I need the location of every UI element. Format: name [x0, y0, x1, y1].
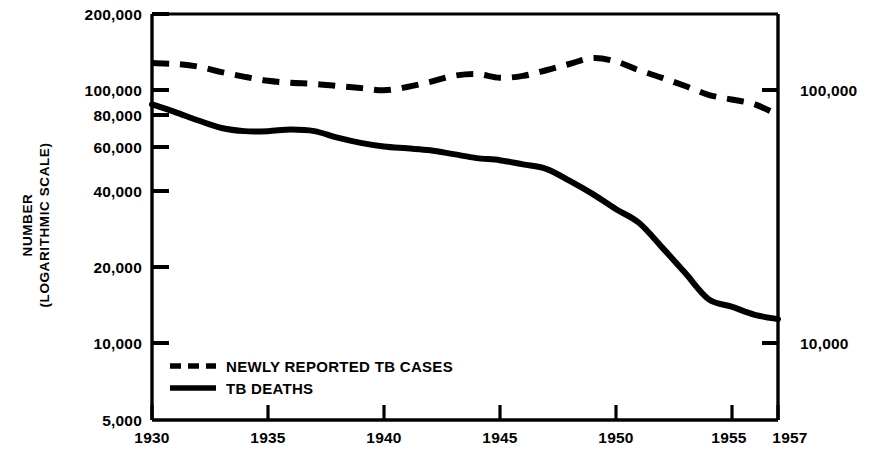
- x-label-1945: 1945: [482, 429, 517, 446]
- series-line-newly-reported-tb-cases: [152, 58, 778, 115]
- y-axis-title: NUMBER (LOGARITHMIC SCALE): [20, 142, 52, 307]
- legend-label-tb-deaths: TB DEATHS: [226, 380, 313, 397]
- x-label-1950: 1950: [598, 429, 633, 446]
- y-label-10000: 10,000: [93, 335, 142, 352]
- y-label-60000: 60,000: [93, 139, 142, 156]
- legend-label-newly-reported-tb-cases: NEWLY REPORTED TB CASES: [226, 358, 453, 375]
- y-label-5000: 5,000: [102, 412, 142, 429]
- y-label-80000: 80,000: [93, 107, 142, 124]
- y-label-200000: 200,000: [85, 6, 142, 23]
- series-line-tb-deaths: [152, 104, 778, 319]
- x-label-1957: 1957: [772, 429, 807, 446]
- chart-canvas: 200,000 100,000 80,000 60,000 40,000 20,…: [0, 0, 871, 451]
- data-series-group: [152, 58, 778, 319]
- y-axis-title-line1: NUMBER: [20, 194, 35, 257]
- y-label-right-100000: 100,000: [800, 82, 857, 99]
- y-axis-tick-labels-left: 200,000 100,000 80,000 60,000 40,000 20,…: [85, 6, 142, 429]
- chart-legend: NEWLY REPORTED TB CASES TB DEATHS: [170, 358, 453, 397]
- tb-chart-figure: 200,000 100,000 80,000 60,000 40,000 20,…: [0, 0, 871, 451]
- y-axis-ticks-right: [762, 90, 778, 343]
- x-label-1940: 1940: [366, 429, 401, 446]
- y-axis-title-line2: (LOGARITHMIC SCALE): [37, 142, 52, 307]
- x-axis-ticks: [152, 405, 778, 420]
- y-axis-tick-labels-right: 100,000 10,000: [800, 82, 857, 352]
- y-label-100000: 100,000: [85, 82, 142, 99]
- x-axis-tick-labels: 1930 1935 1940 1945 1950 1955 1957: [134, 429, 807, 446]
- y-label-right-10000: 10,000: [800, 335, 849, 352]
- x-label-1955: 1955: [711, 429, 746, 446]
- x-label-1930: 1930: [134, 429, 169, 446]
- y-label-20000: 20,000: [93, 259, 142, 276]
- y-label-40000: 40,000: [93, 183, 142, 200]
- x-label-1935: 1935: [250, 429, 285, 446]
